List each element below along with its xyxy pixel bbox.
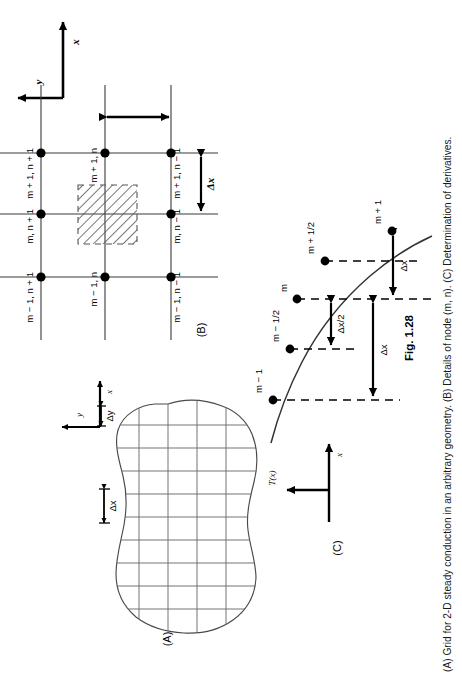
curve-label-m-minus-1: m − 1: [253, 369, 264, 393]
panel-b-x-axis-label: x: [69, 39, 81, 46]
node-label-m1nm1: m + 1, n − 1: [171, 148, 182, 199]
node-label-mm1nm1: m − 1, n − 1: [171, 272, 182, 323]
control-volume-rect: [78, 185, 137, 244]
panel-a-mesh: [110, 395, 265, 645]
curve-node-dot: [321, 257, 330, 266]
panel-c-group: m − 1 m − 1/2 m m + 1/2 m + 1 Δx/2 Δx Δx: [253, 200, 434, 556]
node-label-mm1np1: m − 1, n + 1: [24, 272, 35, 323]
node-dot: [100, 148, 109, 157]
node-label-mnm1: m, n − 1: [171, 209, 182, 244]
deltax-half-label: Δx/2: [335, 314, 346, 333]
curve-label-m-plus-half: m + 1/2: [305, 222, 316, 254]
panel-b-axes: x y: [18, 22, 81, 98]
panel-c-t-axis-label: T(x): [267, 471, 277, 486]
panel-a-y-axis-label: y: [74, 413, 84, 418]
node-label-mnp1: m, n + 1: [24, 209, 35, 244]
panel-c-letter: (C): [331, 540, 343, 555]
deltax-label: Δx: [107, 500, 118, 511]
deltax-upper-label: Δx: [398, 260, 409, 271]
panel-a-group: x y: [62, 381, 265, 646]
panel-b-deltax-dim: Δx: [201, 157, 216, 211]
figure-canvas: x y: [0, 0, 462, 679]
panel-a-deltax-dim: Δx: [99, 489, 118, 523]
curve-label-m: m: [278, 284, 289, 292]
node-dot: [36, 209, 45, 218]
curve-label-m-plus-1: m + 1: [372, 200, 383, 224]
curve-node-dot: [269, 396, 278, 405]
node-dot: [36, 148, 45, 157]
node-label-m1n: m + 1, n: [88, 148, 99, 183]
deltax-label: Δx: [204, 177, 216, 191]
panel-c-axes: x T(x): [267, 444, 344, 522]
curve-node-dot: [388, 227, 397, 236]
deltax-lower-label: Δx: [378, 344, 389, 355]
panel-c-deltax-lower-dim: Δx: [373, 303, 389, 396]
panel-a-x-axis-label: x: [104, 390, 114, 395]
figure-root: x y: [0, 0, 462, 679]
panel-c-node-labels: m − 1 m − 1/2 m m + 1/2 m + 1: [253, 200, 383, 393]
panel-b-group: x y: [0, 22, 218, 340]
panel-a-letter: (A): [161, 632, 173, 647]
node-label-m1np1: m + 1, n + 1: [24, 148, 35, 199]
node-dot: [100, 272, 109, 281]
curve-label-m-minus-half: m − 1/2: [270, 310, 281, 342]
panel-b-y-axis-label: y: [32, 79, 44, 86]
panel-c-deltax-half-dim: Δx/2: [331, 303, 346, 345]
panel-b-letter: (B): [195, 323, 207, 338]
figure-caption: (A) Grid for 2-D steady conduction in an…: [442, 137, 453, 672]
figure-number: Fig. 1.28: [403, 314, 415, 361]
panel-c-x-axis-label: x: [334, 453, 344, 458]
panel-c-deltax-upper-dim: Δx: [393, 236, 409, 295]
node-label-mm1n: m − 1, n: [88, 272, 99, 307]
curve-node-dot: [286, 345, 295, 354]
curve-node-dot: [293, 295, 302, 304]
panel-b-control-volume: [78, 185, 137, 244]
node-dot: [36, 272, 45, 281]
deltay-label: Δy: [104, 410, 115, 421]
